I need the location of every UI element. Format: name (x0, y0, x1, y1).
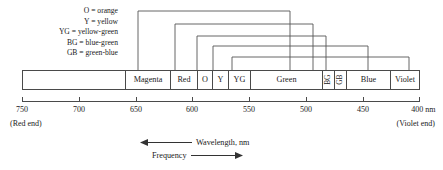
axis-tick-400 (419, 97, 420, 102)
connector-yellow-blue (213, 46, 368, 70)
axis-tick-label-500: 500 (300, 105, 312, 115)
band-violet: Violet (391, 71, 419, 89)
axis-tick-550 (249, 97, 250, 102)
band-magenta: Magenta (126, 71, 171, 89)
legend-item-orange: O = orange (6, 6, 118, 17)
legend-item-blue-green: BG = blue-green (6, 38, 118, 49)
arrow-right-icon (191, 151, 243, 160)
abbreviation-legend: O = orange Y = yellow YG = yellow-green … (6, 6, 118, 59)
legend-item-yellow-green: YG = yellow-green (6, 27, 118, 38)
connector-yellowgreen-violet (232, 57, 409, 70)
band-unlabeled-left (23, 71, 126, 89)
arrow-left-icon (140, 138, 192, 147)
connector-orange-greenblue (197, 36, 326, 70)
wavelength-axis: 750 700 650 600 550 500 450 400 nm (22, 101, 420, 102)
wavelength-caption-text: Wavelength, nm (196, 137, 249, 148)
band-yellow: Y (213, 71, 229, 89)
frequency-caption-text: Frequency (152, 150, 187, 161)
violet-end-label: (Violet end) (397, 119, 435, 129)
wavelength-direction-caption: Wavelength, nm (140, 137, 249, 148)
band-yellow-green: YG (229, 71, 251, 89)
axis-tick-label-550: 550 (243, 105, 255, 115)
spectrum-figure: O = orange Y = yellow YG = yellow-green … (0, 0, 443, 170)
band-green: Green (251, 71, 323, 89)
connector-red-bluegreen (175, 24, 313, 70)
band-green-blue: GB (335, 71, 347, 89)
frequency-direction-caption: Frequency (152, 150, 243, 161)
axis-tick-450 (363, 97, 364, 102)
axis-tick-500 (306, 97, 307, 102)
axis-tick-600 (192, 97, 193, 102)
connector-magenta-green (138, 11, 290, 70)
band-orange: O (198, 71, 213, 89)
axis-tick-label-700: 700 (73, 105, 85, 115)
axis-tick-750 (22, 97, 23, 102)
axis-tick-label-450: 450 (357, 105, 369, 115)
legend-item-green-blue: GB = green-blue (6, 48, 118, 59)
spectrum-color-bar: Magenta Red O Y YG Green BG GB Blue Viol… (22, 70, 420, 90)
axis-tick-650 (136, 97, 137, 102)
band-red: Red (171, 71, 198, 89)
band-blue-green: BG (323, 71, 335, 89)
red-end-label: (Red end) (10, 119, 42, 129)
axis-tick-label-600: 600 (186, 105, 198, 115)
axis-tick-label-750: 750 (16, 105, 28, 115)
band-blue: Blue (347, 71, 391, 89)
axis-tick-label-400: 400 nm (411, 105, 435, 115)
axis-tick-700 (79, 97, 80, 102)
legend-item-yellow: Y = yellow (6, 17, 118, 28)
axis-tick-label-650: 650 (130, 105, 142, 115)
